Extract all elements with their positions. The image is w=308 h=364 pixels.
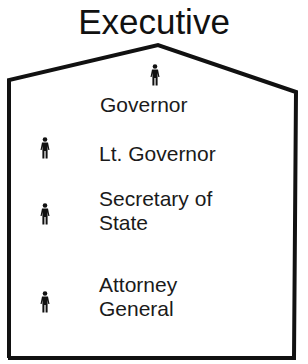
official-label-attorney-general-line1: Attorney [99, 273, 177, 296]
person-icon [40, 291, 50, 313]
official-label-secretary-of-state-line2: State [99, 211, 148, 234]
official-label-secretary-of-state-line1: Secretary of [99, 187, 212, 210]
official-label-attorney-general-line2: General [99, 297, 174, 320]
official-label-governor: Governor [100, 93, 188, 116]
person-icon [40, 137, 50, 159]
person-icon [150, 64, 160, 86]
official-label-lt-governor: Lt. Governor [99, 142, 216, 165]
person-icon [40, 203, 50, 225]
